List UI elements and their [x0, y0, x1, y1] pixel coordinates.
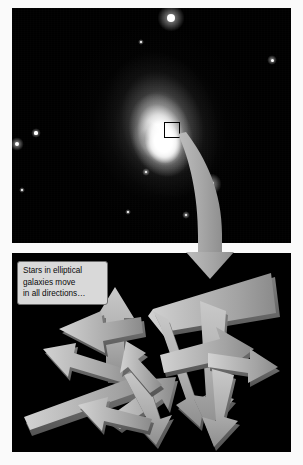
faint-star-far-left: [21, 189, 23, 191]
faint-star-upper-mid: [140, 41, 142, 43]
figure-root: Stars in elliptical galaxies move in all…: [0, 0, 303, 465]
faint-star-upper-right: [271, 59, 274, 62]
faint-star-left-lower: [15, 142, 19, 146]
callout-line-2: galaxies move: [23, 277, 103, 289]
galaxy-panel: [12, 8, 291, 243]
callout-line-1: Stars in elliptical: [23, 265, 103, 277]
inset-region-box: [164, 122, 180, 138]
faint-star-lower-mid: [127, 211, 129, 213]
image-grain: [12, 8, 291, 243]
faint-star-left-upper: [34, 131, 37, 134]
callout-line-3: in all directions…: [23, 288, 103, 300]
explanation-callout: Stars in elliptical galaxies move in all…: [17, 261, 108, 305]
